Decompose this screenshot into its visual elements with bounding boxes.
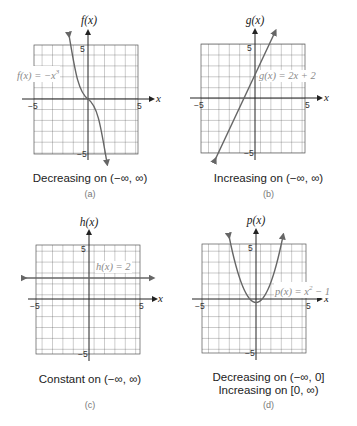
caption-a: Decreasing on (−∞, ∞) — [0, 172, 180, 185]
caption-d-line2: Increasing on [0, ∞) — [180, 384, 357, 397]
sublabel-d: (d) — [180, 400, 357, 410]
ytick-5: 5 — [80, 45, 85, 54]
xtick-5: 5 — [139, 302, 144, 311]
function-label-h: h(x) = 2 — [95, 261, 132, 273]
panel-b-title: g(x) — [238, 14, 272, 26]
panel-b-graph — [190, 31, 320, 160]
panel-c-graph — [24, 232, 155, 361]
panel-d-title: p(x) — [239, 214, 273, 226]
xtick-neg5: −5 — [194, 101, 204, 110]
function-label-g: g(x) = 2x + 2 — [258, 70, 317, 82]
caption-d-line1: Decreasing on (−∞, 0] — [180, 371, 357, 384]
ytick-5: 5 — [248, 244, 253, 253]
ytick-neg5: −5 — [245, 349, 255, 358]
function-label-p: p(x) = x2 − 1 — [274, 282, 331, 298]
xtick-5: 5 — [137, 102, 142, 111]
panel-a-graph — [22, 32, 152, 163]
panel-a-title: f(x) — [72, 14, 106, 26]
sublabel-b: (b) — [180, 189, 357, 199]
ytick-5: 5 — [81, 245, 86, 254]
ytick-5: 5 — [247, 44, 252, 53]
x-axis-label: x — [156, 92, 161, 104]
xtick-5: 5 — [305, 101, 310, 110]
x-axis-label: x — [324, 91, 329, 103]
function-label-f: f(x) = −x3 — [16, 66, 60, 82]
xtick-neg5: −5 — [30, 302, 40, 311]
ytick-neg5: −5 — [78, 350, 88, 359]
charts-canvas — [0, 0, 357, 426]
xtick-5: 5 — [306, 302, 311, 311]
ytick-neg5: −5 — [77, 150, 87, 159]
caption-c: Constant on (−∞, ∞) — [0, 373, 180, 386]
sublabel-c: (c) — [0, 400, 180, 410]
caption-b: Increasing on (−∞, ∞) — [180, 172, 357, 185]
sublabel-a: (a) — [0, 189, 180, 199]
xtick-neg5: −5 — [195, 302, 205, 311]
panel-c-title: h(x) — [72, 216, 106, 228]
x-axis-label: x — [158, 292, 163, 304]
ytick-neg5: −5 — [244, 149, 254, 158]
xtick-neg5: −5 — [28, 102, 38, 111]
